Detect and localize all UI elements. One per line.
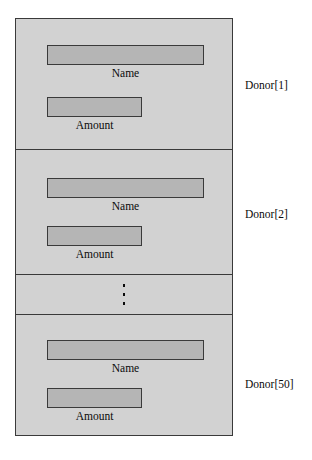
field-label-amount-donor-2: Amount xyxy=(47,247,142,261)
field-label-name-donor-50: Name xyxy=(47,361,204,375)
donor-array-diagram: Name Amount Name Amount xyxy=(0,0,312,460)
field-bar-name-donor-2 xyxy=(47,178,204,198)
record-cell-donor-1: Name Amount xyxy=(16,19,232,149)
field-label-name-donor-2: Name xyxy=(47,199,204,213)
vertical-ellipsis-icon xyxy=(16,275,232,314)
record-cell-donor-50: Name Amount xyxy=(16,314,232,434)
field-name-donor-50: Name xyxy=(47,340,204,375)
record-cell-donor-2: Name Amount xyxy=(16,149,232,274)
field-amount-donor-1: Amount xyxy=(47,97,142,132)
ellipsis-dot xyxy=(123,302,126,305)
record-cell-elided xyxy=(16,274,232,314)
field-label-amount-donor-50: Amount xyxy=(47,409,142,423)
annotation-donor-2: Donor[2] xyxy=(245,207,288,221)
field-label-amount-donor-1: Amount xyxy=(47,118,142,132)
field-amount-donor-2: Amount xyxy=(47,226,142,261)
donor-array-outer-box: Name Amount Name Amount xyxy=(15,18,233,436)
field-bar-name-donor-50 xyxy=(47,340,204,360)
field-bar-name-donor-1 xyxy=(47,45,204,65)
ellipsis-dot xyxy=(123,284,126,287)
annotation-donor-50: Donor[50] xyxy=(245,377,294,391)
ellipsis-dot xyxy=(123,293,126,296)
field-bar-amount-donor-1 xyxy=(47,97,142,117)
field-name-donor-2: Name xyxy=(47,178,204,213)
field-name-donor-1: Name xyxy=(47,45,204,80)
field-bar-amount-donor-2 xyxy=(47,226,142,246)
field-bar-amount-donor-50 xyxy=(47,388,142,408)
annotation-donor-1: Donor[1] xyxy=(245,78,288,92)
field-label-name-donor-1: Name xyxy=(47,66,204,80)
field-amount-donor-50: Amount xyxy=(47,388,142,423)
